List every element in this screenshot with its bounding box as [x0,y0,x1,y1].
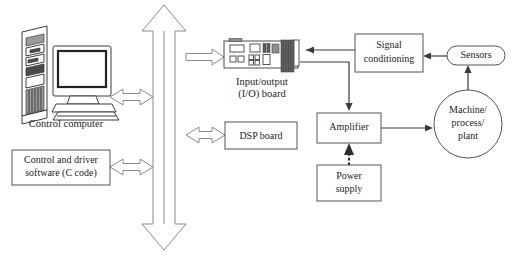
control-software-label-line2: software (C code) [25,167,97,179]
io-board-caption-line1: Input/output [236,76,288,87]
power-supply-label-line1: Power [336,170,362,181]
machine-label-line1: Machine/ [449,104,487,115]
signal-conditioning-node[interactable]: Signal conditioning [355,34,423,72]
control-software-node[interactable]: Control and driver software (C code) [12,150,110,185]
computer-tower-icon [22,26,47,124]
control-software-label-line1: Control and driver [24,154,99,165]
power-supply-label-line2: supply [336,183,363,194]
block-diagram: Control computer BUS (hollow double arro… [0,0,517,262]
control-computer-label: Control computer [29,118,104,129]
arrow-bus-to-io-board [186,49,224,65]
sensors-label: Sensors [460,49,491,60]
machine-label-line3: plant [458,130,478,141]
diagram-canvas: Control computer BUS (hollow double arro… [0,0,517,262]
arrow-sensors-to-signalcond [423,52,447,59]
arrow-software-to-bus [110,159,153,175]
signal-conditioning-label-line1: Signal [376,39,402,50]
arrow-dspboard-to-bus [186,127,225,143]
dsp-board-node[interactable]: DSP board [225,122,297,149]
arrow-amplifier-to-machine [381,124,433,131]
io-board-illustration[interactable]: Input/output (I/O) board [224,39,299,101]
machine-process-plant-node[interactable]: Machine/ process/ plant [434,90,502,158]
io-board-caption-line2: (I/O) board [238,88,286,100]
arrow-computer-to-bus [110,89,153,105]
power-supply-node[interactable]: Power supply [317,165,381,201]
system-bus-arrow[interactable] [142,5,186,250]
arrow-powersupply-to-amplifier [344,143,354,165]
arrow-machine-to-sensors [464,65,471,90]
arrow-ioboard-to-amplifier [300,62,353,111]
control-computer-illustration[interactable]: Control computer [22,26,119,129]
arrow-signalcond-to-ioboard [306,46,355,53]
amplifier-label: Amplifier [329,121,369,132]
dsp-board-label: DSP board [239,130,282,141]
signal-conditioning-label-line2: conditioning [364,53,415,64]
computer-monitor-icon [52,46,119,120]
machine-label-line2: process/ [452,117,485,128]
sensors-node[interactable]: Sensors [447,46,505,65]
amplifier-node[interactable]: Amplifier [317,113,381,143]
